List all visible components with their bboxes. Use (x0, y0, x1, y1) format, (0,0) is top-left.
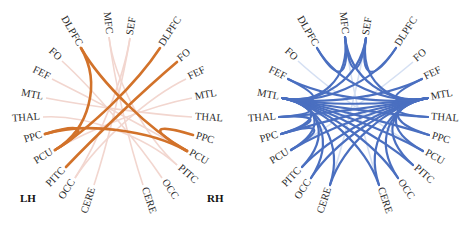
node-label-pcu_l: PCU (268, 146, 292, 166)
node-label-dlpfc_l: DLPFC (295, 14, 321, 48)
connectivity-figure: DLPFCMFCSEFDLPFCFOFEFMTLTHALPPCPCUPITCOC… (0, 0, 469, 227)
node-label-mfc: MFC (338, 11, 352, 34)
node-label-cere_r: CERE (376, 186, 395, 215)
node-label-fef_l: FEF (267, 64, 288, 82)
node-label-fo_r: FO (175, 46, 193, 63)
hemisphere-label-rh: RH (207, 192, 224, 204)
node-label-pitc_r: PITC (412, 162, 436, 185)
node-label-mtl_l: MTL (20, 87, 44, 102)
node-label-mfc: MFC (102, 11, 116, 34)
node-label-pitc_r: PITC (176, 162, 200, 185)
node-label-thal_r: THAL (431, 111, 460, 124)
left-chord-diagram-orange: DLPFCMFCSEFDLPFCFOFEFMTLTHALPPCPCUPITCOC… (12, 11, 224, 215)
node-label-fef_r: FEF (422, 64, 443, 82)
node-label-fef_l: FEF (31, 64, 52, 82)
node-label-dlpfc_l: DLPFC (59, 14, 85, 48)
node-label-mtl_r: MTL (194, 87, 218, 102)
node-label-cere_l: CERE (78, 186, 97, 215)
faint-edges (279, 37, 428, 185)
node-label-pcu_l: PCU (32, 146, 56, 166)
hemisphere-label-lh: LH (20, 192, 36, 204)
node-label-cere_l: CERE (314, 186, 333, 215)
node-label-thal_l: THAL (248, 111, 277, 124)
node-label-cere_r: CERE (140, 186, 159, 215)
node-label-ppc_r: PPC (195, 130, 216, 146)
node-label-ppc_r: PPC (431, 130, 452, 146)
node-label-pcu_r: PCU (187, 147, 211, 167)
node-label-thal_r: THAL (195, 111, 224, 124)
node-label-mtl_l: MTL (256, 87, 280, 102)
right-chord-diagram-blue: DLPFCMFCSEFDLPFCFOFEFMTLTHALPPCPCUPITCOC… (248, 11, 460, 215)
node-label-occ_r: OCC (160, 177, 181, 201)
node-label-fo_l: FO (283, 45, 301, 62)
faint-edges (43, 37, 192, 185)
node-label-fef_r: FEF (186, 64, 207, 82)
node-labels: DLPFCMFCSEFDLPFCFOFEFMTLTHALPPCPCUPITCOC… (248, 11, 460, 215)
node-label-ppc_l: PPC (22, 129, 43, 145)
strong-edge (364, 38, 396, 72)
node-label-thal_l: THAL (12, 111, 41, 124)
node-label-occ_r: OCC (396, 177, 417, 201)
node-label-sef: SEF (360, 16, 374, 36)
node-label-sef: SEF (124, 16, 138, 36)
node-label-mtl_r: MTL (430, 87, 454, 102)
node-label-ppc_l: PPC (258, 129, 279, 145)
node-label-fo_l: FO (47, 45, 65, 62)
node-label-fo_r: FO (411, 46, 429, 63)
faint-edge (109, 37, 177, 165)
node-label-dlpfc_r: DLPFC (392, 15, 419, 48)
strong-edge (279, 116, 311, 134)
strong-edges (279, 37, 429, 185)
node-label-pcu_r: PCU (423, 147, 447, 167)
node-label-dlpfc_r: DLPFC (156, 15, 183, 48)
